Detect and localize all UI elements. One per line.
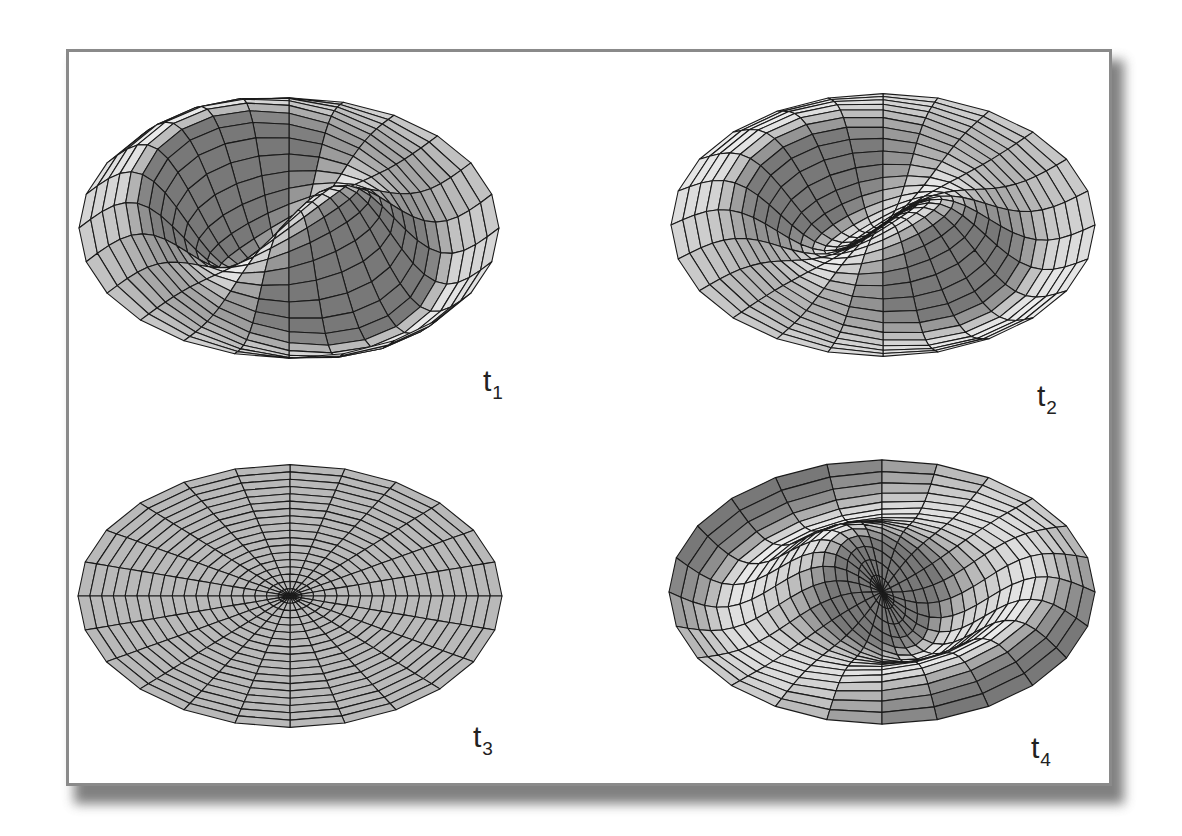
panel-label-t1: t1 bbox=[483, 366, 503, 396]
panel-label-t4: t4 bbox=[1031, 733, 1051, 763]
label-main: t bbox=[483, 364, 491, 397]
label-main: t bbox=[473, 720, 481, 753]
label-subscript: 4 bbox=[1040, 749, 1051, 770]
panel-label-t2: t2 bbox=[1037, 381, 1057, 411]
label-main: t bbox=[1037, 379, 1045, 412]
membrane-surface-t4 bbox=[0, 0, 1182, 836]
label-main: t bbox=[1031, 731, 1039, 764]
panel-label-t3: t3 bbox=[473, 722, 493, 752]
label-subscript: 1 bbox=[492, 382, 503, 403]
label-subscript: 3 bbox=[482, 738, 493, 759]
label-subscript: 2 bbox=[1046, 397, 1057, 418]
